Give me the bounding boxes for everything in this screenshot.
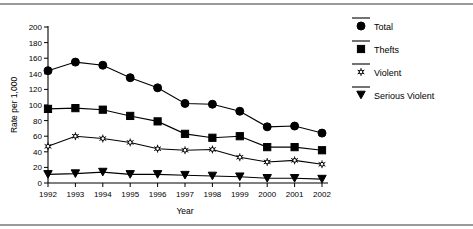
y-tick-label: 180 [29, 39, 43, 48]
marker-square [318, 147, 325, 154]
x-tick-label: 1995 [121, 190, 139, 199]
marker-star [99, 135, 106, 143]
marker-star [291, 156, 298, 164]
y-tick-label: 100 [29, 101, 43, 110]
y-tick-label: 140 [29, 70, 43, 79]
legend-label: Total [374, 22, 393, 32]
marker-star [127, 139, 134, 147]
x-tick-label: 1999 [231, 190, 249, 199]
marker-triangle-down [357, 91, 365, 99]
series-line [48, 62, 322, 133]
x-tick-label: 1998 [204, 190, 222, 199]
marker-square [44, 105, 51, 112]
marker-square [236, 133, 243, 140]
chart-figure: 0204060801001201401601802001992199319941… [0, 0, 473, 229]
legend-label: Thefts [374, 45, 400, 55]
legend-label: Serious Violent [374, 91, 435, 101]
series-total [44, 58, 326, 137]
marker-star [182, 146, 189, 154]
marker-square [181, 130, 188, 137]
marker-star [236, 153, 243, 161]
marker-star [72, 132, 79, 140]
series-line [48, 108, 322, 150]
marker-star [154, 145, 161, 153]
marker-circle [126, 74, 134, 82]
marker-circle [71, 58, 79, 66]
marker-square [291, 144, 298, 151]
legend-item[interactable]: Serious Violent [352, 87, 435, 101]
line-chart-svg: 0204060801001201401601802001992199319941… [0, 0, 473, 229]
marker-square [154, 118, 161, 125]
marker-square [127, 112, 134, 119]
marker-square [264, 144, 271, 151]
legend-item[interactable]: Total [352, 18, 393, 32]
legend-item[interactable]: Thefts [352, 41, 400, 55]
marker-star [319, 160, 326, 168]
legend: TotalTheftsViolentSerious Violent [352, 18, 435, 101]
series-serious-violent [44, 168, 326, 183]
y-tick-label: 120 [29, 85, 43, 94]
x-tick-label: 1996 [149, 190, 167, 199]
marker-circle [44, 67, 52, 75]
marker-star [209, 146, 216, 154]
x-tick-label: 1997 [176, 190, 194, 199]
marker-circle [99, 61, 107, 69]
marker-circle [263, 123, 271, 131]
y-tick-label: 20 [33, 163, 42, 172]
marker-circle [291, 122, 299, 130]
x-tick-label: 1992 [39, 190, 57, 199]
y-tick-label: 200 [29, 23, 43, 32]
marker-circle [318, 129, 326, 137]
y-tick-label: 40 [33, 148, 42, 157]
x-tick-label: 2000 [258, 190, 276, 199]
marker-circle [181, 99, 189, 107]
y-axis-title: Rate per 1,000 [9, 77, 19, 134]
marker-star [264, 158, 271, 166]
marker-square [99, 106, 106, 113]
marker-square [72, 105, 79, 112]
marker-square [357, 45, 364, 52]
marker-star [45, 142, 52, 150]
x-tick-label: 2002 [313, 190, 331, 199]
y-tick-label: 0 [38, 179, 43, 188]
marker-circle [154, 84, 162, 92]
x-axis-title: Year [176, 206, 193, 216]
marker-circle [236, 107, 244, 115]
y-tick-label: 80 [33, 117, 42, 126]
legend-item[interactable]: Violent [352, 64, 402, 78]
marker-circle [357, 22, 365, 30]
marker-star [358, 68, 365, 76]
x-tick-label: 2001 [286, 190, 304, 199]
y-tick-label: 160 [29, 54, 43, 63]
x-tick-label: 1994 [94, 190, 112, 199]
x-tick-label: 1993 [67, 190, 85, 199]
marker-circle [208, 100, 216, 108]
legend-label: Violent [374, 68, 402, 78]
marker-square [209, 134, 216, 141]
y-tick-label: 60 [33, 132, 42, 141]
